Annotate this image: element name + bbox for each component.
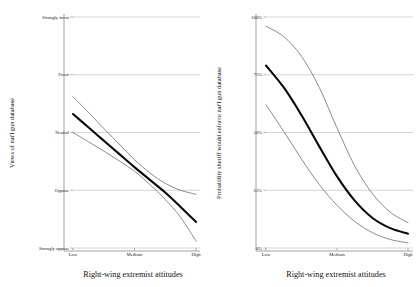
- left-x-ticks: [73, 248, 196, 251]
- panel-probability-sheriff-would-enforce: 0%25%50%75%100% LowMediumHigh Probabilit…: [210, 0, 419, 287]
- y-tick-label: 50%: [254, 130, 263, 135]
- fit-line: [266, 66, 408, 234]
- left-gridlines: [73, 17, 200, 248]
- y-tick-label: 0%: [256, 246, 262, 251]
- y-tick-label: Strongly favor: [42, 15, 69, 20]
- x-tick-label: Medium: [127, 252, 143, 257]
- left-series: [73, 97, 196, 241]
- x-tick-label: High: [403, 252, 413, 257]
- y-tick-label: 100%: [251, 15, 262, 20]
- left-xtick-labels: LowMediumHigh: [69, 252, 202, 257]
- right-x-ticks: [266, 248, 408, 251]
- left-y-axis-title: Views of nat'l gun database: [8, 98, 15, 168]
- y-tick-label: 25%: [254, 188, 263, 193]
- right-panel-svg: 0%25%50%75%100% LowMediumHigh Probabilit…: [210, 0, 419, 287]
- y-tick-label: Favor: [58, 72, 69, 77]
- y-tick-label: 75%: [254, 72, 263, 77]
- confidence-interval-line: [266, 105, 408, 243]
- left-ytick-labels: Strongly opposeOpposeNeutralFavorStrongl…: [39, 15, 70, 251]
- right-xtick-labels: LowMediumHigh: [262, 252, 414, 257]
- x-tick-label: High: [191, 252, 201, 257]
- y-tick-label: Strongly oppose: [39, 246, 69, 251]
- right-series: [266, 26, 408, 243]
- confidence-interval-line: [73, 133, 196, 242]
- fit-line: [73, 114, 196, 222]
- y-tick-label: Oppose: [55, 188, 69, 193]
- right-x-axis-title: Right-wing extremist attitudes: [286, 270, 386, 279]
- x-tick-label: Low: [262, 252, 271, 257]
- figure-two-panel-prediction-plots: Strongly opposeOpposeNeutralFavorStrongl…: [0, 0, 419, 287]
- right-y-ticks: [263, 17, 266, 248]
- x-tick-label: Low: [69, 252, 78, 257]
- right-ytick-labels: 0%25%50%75%100%: [251, 15, 262, 251]
- y-tick-label: Neutral: [55, 130, 69, 135]
- left-panel-svg: Strongly opposeOpposeNeutralFavorStrongl…: [0, 0, 209, 287]
- confidence-interval-line: [266, 26, 408, 222]
- panel-views-of-natl-gun-database: Strongly opposeOpposeNeutralFavorStrongl…: [0, 0, 209, 287]
- right-y-axis-title: Probability sheriff would enforce nat'l …: [215, 67, 222, 199]
- x-tick-label: Medium: [329, 252, 345, 257]
- left-x-axis-title: Right-wing extremist attitudes: [83, 270, 183, 279]
- confidence-interval-line: [73, 97, 196, 195]
